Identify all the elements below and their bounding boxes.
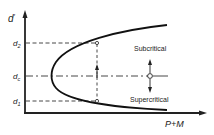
bifurcation-diagram: d′ d2 dc d1 Subcritical Supercritical P+…	[0, 0, 214, 135]
d1-point	[95, 99, 98, 102]
d1-label: d1	[13, 97, 21, 107]
y-axis-label: d′	[8, 13, 16, 24]
d2-label: d2	[13, 39, 21, 49]
supercritical-label: Supercritical	[130, 96, 169, 104]
equilibrium-point	[148, 74, 153, 79]
x-axis-label: P+M	[165, 119, 184, 129]
d2-point	[95, 41, 98, 44]
subcritical-label: Subcritical	[134, 45, 167, 52]
dc-label: dc	[13, 72, 20, 82]
